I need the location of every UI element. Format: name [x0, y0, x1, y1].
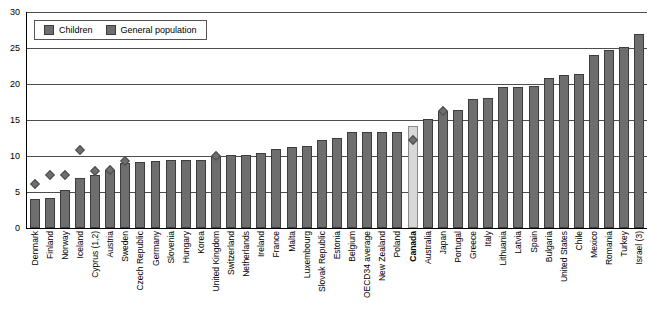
bar-general-population[interactable] — [529, 86, 539, 228]
x-label-slot: Lithuania — [496, 231, 511, 322]
bar-general-population[interactable] — [332, 138, 342, 228]
bar-general-population[interactable] — [453, 110, 463, 228]
bar-general-population[interactable] — [302, 146, 312, 228]
bar-group[interactable] — [632, 12, 647, 228]
bar-general-population[interactable] — [468, 99, 478, 228]
x-tick-label: Chile — [575, 231, 584, 250]
bar-group[interactable] — [163, 12, 178, 228]
bar-general-population[interactable] — [196, 160, 206, 228]
bar-general-population[interactable] — [287, 147, 297, 228]
bar-group[interactable] — [556, 12, 571, 228]
bar-general-population[interactable] — [377, 132, 387, 228]
x-tick-label: OECD34 average — [363, 231, 372, 298]
bar-general-population[interactable] — [45, 198, 55, 228]
bar-general-population[interactable] — [317, 140, 327, 228]
bar-group[interactable] — [27, 12, 42, 228]
bar-group[interactable] — [103, 12, 118, 228]
bar-group[interactable] — [390, 12, 405, 228]
bar-group[interactable] — [118, 12, 133, 228]
x-tick-label: Belgium — [348, 231, 357, 262]
bar-group[interactable] — [541, 12, 556, 228]
bar-group[interactable] — [420, 12, 435, 228]
bar-general-population[interactable] — [30, 199, 40, 228]
x-label-slot: Chile — [571, 231, 586, 322]
bar-general-population[interactable] — [634, 34, 644, 228]
marker-children[interactable] — [60, 171, 70, 181]
bar-group[interactable] — [496, 12, 511, 228]
bar-general-population[interactable] — [619, 47, 629, 228]
bar-group[interactable] — [193, 12, 208, 228]
x-tick-label: Korea — [197, 231, 206, 254]
x-label-slot: Israel (3) — [632, 231, 647, 322]
bar-general-population[interactable] — [151, 161, 161, 228]
bar-group[interactable] — [329, 12, 344, 228]
bar-group[interactable] — [617, 12, 632, 228]
bar-group[interactable] — [269, 12, 284, 228]
bar-general-population[interactable] — [513, 87, 523, 228]
bar-general-population[interactable] — [392, 132, 402, 228]
bar-general-population[interactable] — [589, 55, 599, 228]
bar-general-population[interactable] — [347, 132, 357, 228]
bar-group[interactable] — [208, 12, 223, 228]
bar-group[interactable] — [254, 12, 269, 228]
bar-group[interactable] — [314, 12, 329, 228]
bar-group[interactable] — [587, 12, 602, 228]
bar-general-population[interactable] — [362, 132, 372, 228]
bar-general-population[interactable] — [498, 87, 508, 228]
bar-group[interactable] — [405, 12, 420, 228]
bar-general-population[interactable] — [75, 178, 85, 228]
bar-group[interactable] — [526, 12, 541, 228]
bar-general-population[interactable] — [135, 162, 145, 228]
bar-group[interactable] — [72, 12, 87, 228]
bar-general-population[interactable] — [181, 160, 191, 228]
bar-general-population[interactable] — [241, 155, 251, 228]
bar-general-population[interactable] — [226, 155, 236, 228]
bar-group[interactable] — [435, 12, 450, 228]
bar-general-population[interactable] — [211, 156, 221, 228]
marker-children[interactable] — [75, 145, 85, 155]
bars-layer — [27, 12, 647, 228]
bar-group[interactable] — [42, 12, 57, 228]
marker-children[interactable] — [30, 179, 40, 189]
x-tick-label: Norway — [61, 231, 70, 260]
bar-group[interactable] — [571, 12, 586, 228]
bar-general-population[interactable] — [423, 119, 433, 228]
bar-general-population[interactable] — [166, 160, 176, 228]
bar-group[interactable] — [87, 12, 102, 228]
bar-general-population[interactable] — [544, 78, 554, 228]
bar-group[interactable] — [57, 12, 72, 228]
bar-general-population[interactable] — [438, 111, 448, 228]
bar-group[interactable] — [481, 12, 496, 228]
bar-general-population[interactable] — [483, 98, 493, 228]
bar-general-population[interactable] — [105, 170, 115, 228]
bar-group[interactable] — [602, 12, 617, 228]
bar-group[interactable] — [284, 12, 299, 228]
bar-general-population[interactable] — [272, 149, 282, 228]
bar-group[interactable] — [360, 12, 375, 228]
bar-group[interactable] — [375, 12, 390, 228]
y-axis-tick-labels: 051015202530 — [0, 0, 24, 322]
bar-group[interactable] — [239, 12, 254, 228]
bar-general-population[interactable] — [90, 175, 100, 228]
x-tick-label: Czech Republic — [136, 231, 145, 291]
bar-general-population[interactable] — [559, 75, 569, 228]
bar-group[interactable] — [133, 12, 148, 228]
bar-group[interactable] — [466, 12, 481, 228]
bar-general-population[interactable] — [120, 163, 130, 228]
bar-general-population[interactable] — [604, 50, 614, 228]
x-label-slot: Japan — [435, 231, 450, 322]
bar-general-population[interactable] — [256, 153, 266, 228]
marker-children[interactable] — [45, 171, 55, 181]
x-label-slot: Estonia — [329, 231, 344, 322]
bar-group[interactable] — [511, 12, 526, 228]
x-label-slot: Hungary — [178, 231, 193, 322]
bar-group[interactable] — [224, 12, 239, 228]
bar-general-population[interactable] — [574, 74, 584, 228]
bar-group[interactable] — [345, 12, 360, 228]
x-tick-label: Cyprus (1,2) — [91, 231, 100, 278]
bar-group[interactable] — [148, 12, 163, 228]
bar-general-population[interactable] — [60, 190, 70, 228]
bar-group[interactable] — [450, 12, 465, 228]
bar-group[interactable] — [299, 12, 314, 228]
bar-group[interactable] — [178, 12, 193, 228]
